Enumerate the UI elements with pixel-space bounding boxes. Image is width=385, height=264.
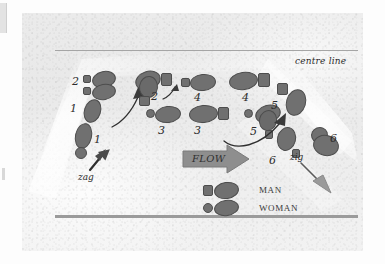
- step-number-4-right: 4: [242, 92, 249, 103]
- footprint-heel-step3-a: [146, 109, 155, 118]
- diagram-paper-sheet: centre line 2 1 1 zag 2: [22, 13, 363, 251]
- step-number-4-left: 4: [194, 92, 201, 103]
- footprint-heel-step4-b: [258, 73, 270, 87]
- scan-edge-artifact: [0, 3, 7, 33]
- footprint-heel-overlap-b: [139, 96, 150, 106]
- step-number-2-left: 2: [72, 76, 79, 87]
- zag-label: zag: [78, 173, 94, 182]
- footprint-heel-step5-c: [277, 83, 288, 95]
- step-number-3-right: 3: [194, 125, 201, 136]
- zag-arrow-icon: [86, 143, 120, 173]
- legend-man-heel: [203, 185, 213, 196]
- footprint-sole-step3-a: [154, 104, 182, 124]
- step-number-1-upper: 1: [70, 103, 77, 114]
- centre-line-label: centre line: [295, 57, 346, 66]
- legend-man-label: MAN: [259, 185, 282, 195]
- screenshot-root: centre line 2 1 1 zag 2: [0, 0, 385, 264]
- flow-label: FLOW: [192, 153, 225, 164]
- footprint-heel-step4-a: [181, 78, 190, 87]
- footprint-sole-step4-b: [228, 70, 259, 92]
- step-number-2-right: 2: [151, 91, 158, 102]
- scan-edge-tick: [2, 168, 5, 180]
- step-number-6-right: 6: [330, 133, 337, 144]
- centre-line-top-boundary: [55, 50, 358, 51]
- legend-woman-heel: [203, 203, 213, 213]
- step-number-6-left: 6: [269, 155, 276, 166]
- floor-bottom-boundary: [55, 215, 358, 218]
- footprint-sole-step1-a: [81, 97, 105, 125]
- legend-woman-label: WOMAN: [259, 203, 298, 213]
- step-number-3-left: 3: [158, 125, 165, 136]
- footprint-sole-step3-b: [188, 104, 218, 124]
- footprint-heel-step2-a: [83, 75, 91, 83]
- zig-arrow-icon: [297, 159, 339, 197]
- small-arrow-step2-icon: [161, 83, 183, 103]
- footprint-heel-step2-b: [83, 87, 91, 95]
- footprint-sole-step4-a: [189, 73, 217, 93]
- legend-man-sole: [213, 180, 240, 200]
